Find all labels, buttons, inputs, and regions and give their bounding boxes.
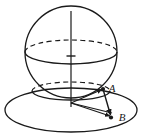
geometry-canvas: A B [0, 0, 144, 138]
label-b: B [119, 111, 126, 123]
point-a-marker [101, 87, 105, 91]
vector-origin-to-b [71, 103, 110, 116]
vector-origin-to-a [71, 90, 102, 104]
point-b-marker [109, 115, 113, 119]
geometry-figure: A B [0, 0, 144, 138]
label-a: A [108, 82, 116, 94]
